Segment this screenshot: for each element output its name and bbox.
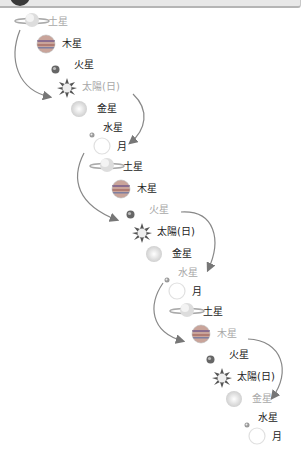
venus-icon bbox=[225, 390, 243, 412]
saturn-icon bbox=[89, 157, 125, 177]
arrow-jupiter-to-venus-3 bbox=[248, 339, 282, 398]
venus-icon bbox=[145, 245, 163, 267]
arrow-sun-to-moon-1 bbox=[130, 94, 144, 143]
arrows-layer bbox=[0, 0, 304, 453]
planet-label: 木星 bbox=[137, 183, 157, 195]
planet-label: 水星 bbox=[178, 267, 198, 279]
sun-icon bbox=[132, 223, 152, 247]
planet-label: 水星 bbox=[258, 412, 278, 424]
saturn-icon bbox=[14, 12, 50, 32]
planet-label: 太陽(日) bbox=[237, 371, 275, 383]
mars-icon bbox=[206, 349, 215, 368]
venus-icon bbox=[70, 100, 88, 122]
planet-label: 月 bbox=[272, 431, 282, 443]
planet-label: 土星 bbox=[123, 161, 143, 173]
planet-label: 土星 bbox=[48, 16, 68, 28]
arrow-mars-to-mercury-2 bbox=[181, 212, 215, 270]
planet-label: 木星 bbox=[62, 38, 82, 50]
moon-icon bbox=[168, 282, 186, 304]
sun-icon bbox=[57, 78, 77, 102]
planet-label: 月 bbox=[192, 286, 202, 298]
planet-label: 金星 bbox=[252, 393, 272, 405]
mars-icon bbox=[51, 59, 60, 78]
planet-label: 土星 bbox=[203, 306, 223, 318]
planet-label: 金星 bbox=[172, 248, 192, 260]
jupiter-icon bbox=[36, 34, 56, 58]
planet-label: 火星 bbox=[149, 204, 169, 216]
planet-label: 水星 bbox=[103, 122, 123, 134]
jupiter-icon bbox=[111, 179, 131, 203]
mars-icon bbox=[126, 204, 135, 223]
planet-label: 金星 bbox=[97, 103, 117, 115]
planet-label: 月 bbox=[117, 141, 127, 153]
jupiter-icon bbox=[191, 324, 211, 348]
planet-label: 太陽(日) bbox=[157, 226, 195, 238]
saturn-icon bbox=[169, 302, 205, 322]
planet-label: 木星 bbox=[217, 328, 237, 340]
sun-icon bbox=[212, 368, 232, 392]
planet-label: 火星 bbox=[229, 349, 249, 361]
moon-icon bbox=[93, 137, 111, 159]
moon-icon bbox=[248, 427, 266, 449]
planet-label: 火星 bbox=[74, 59, 94, 71]
planet-label: 太陽(日) bbox=[82, 81, 120, 93]
